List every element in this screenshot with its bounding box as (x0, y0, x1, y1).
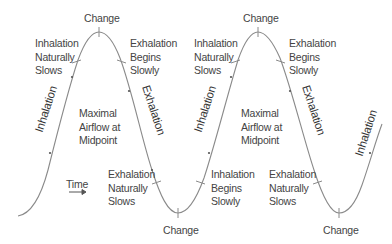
time-axis-label: Time (66, 178, 88, 192)
annotation-maximal-airflow-2: Maximal Airflow at Midpoint (241, 107, 282, 148)
annotation-exhalation-begins-slowly-2: Exhalation Begins Slowly (289, 37, 336, 78)
annotation-exhalation-begins-slowly-1: Exhalation Begins Slowly (130, 37, 177, 78)
annotation-inhalation-begins-slowly: Inhalation Begins Slowly (211, 168, 255, 209)
annotation-maximal-airflow-1: Maximal Airflow at Midpoint (79, 107, 120, 148)
change-label-trough-2: Change (323, 224, 359, 238)
annotation-inhalation-naturally-slows-2: Inhalation Naturally Slows (194, 37, 238, 78)
change-label-peak-2: Change (243, 12, 279, 26)
change-label-peak-1: Change (84, 12, 120, 26)
change-label-trough-1: Change (163, 224, 199, 238)
breathing-cycle-diagram: Change Change Change Change Inhalation N… (0, 0, 392, 244)
annotation-exhalation-naturally-slows-2: Exhalation Naturally Slows (269, 168, 316, 209)
annotation-inhalation-naturally-slows-1: Inhalation Naturally Slows (35, 37, 79, 78)
annotation-exhalation-naturally-slows-1: Exhalation Naturally Slows (108, 168, 155, 209)
